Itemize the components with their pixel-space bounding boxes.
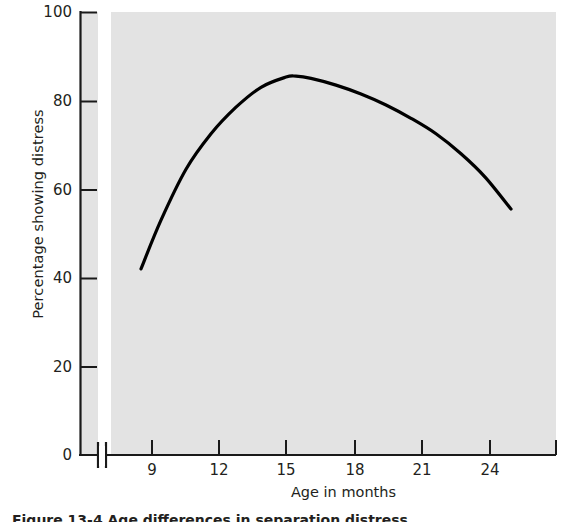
x-tick-label-9: 9 xyxy=(132,463,172,478)
x-axis-tick-labels: 9 12 15 18 21 24 xyxy=(0,0,577,522)
x-tick-label-21: 21 xyxy=(402,463,442,478)
x-tick-label-15: 15 xyxy=(266,463,306,478)
x-axis-title: Age in months xyxy=(0,484,577,500)
x-tick-label-18: 18 xyxy=(335,463,375,478)
x-axis-title-text: Age in months xyxy=(291,484,396,500)
x-tick-label-12: 12 xyxy=(199,463,239,478)
figure-caption: Figure 13-4 Age differences in separatio… xyxy=(12,512,572,522)
x-tick-label-24: 24 xyxy=(470,463,510,478)
figure-chart: Percentage showing distress 100 80 60 40… xyxy=(0,0,577,522)
